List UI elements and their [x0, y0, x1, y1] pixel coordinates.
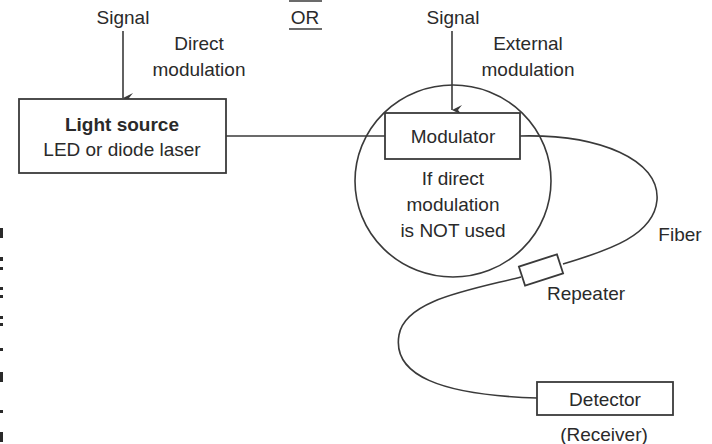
- modulator-box: Modulator: [385, 113, 520, 159]
- fiber-segment-repeater-to-detector: [398, 277, 537, 398]
- detector-label: Detector: [569, 389, 641, 410]
- modulator-note-line1: If direct: [422, 168, 485, 189]
- direct-mode-label-line2: modulation: [153, 59, 246, 80]
- light-source-box: Light source LED or diode laser: [19, 99, 226, 173]
- light-source-subtitle: LED or diode laser: [43, 139, 201, 160]
- external-mode-label-line2: modulation: [482, 59, 575, 80]
- modulator-label: Modulator: [411, 126, 496, 147]
- modulator-note-line2: modulation: [407, 194, 500, 215]
- fiber-label: Fiber: [658, 224, 702, 245]
- or-label: OR: [291, 7, 320, 28]
- optical-link-diagram: OR Signal Direct modulation Light source…: [0, 0, 712, 444]
- repeater-box: [519, 254, 563, 285]
- modulator-note-line3: is NOT used: [400, 220, 505, 241]
- direct-mode-label-line1: Direct: [174, 33, 224, 54]
- repeater-label: Repeater: [547, 283, 626, 304]
- light-source-title: Light source: [65, 114, 179, 135]
- external-mode-label-line1: External: [493, 33, 563, 54]
- direct-signal-label: Signal: [97, 7, 150, 28]
- detector-box: Detector: [537, 382, 673, 415]
- detector-sublabel: (Receiver): [560, 424, 648, 444]
- external-signal-label: Signal: [427, 7, 480, 28]
- fiber-segment-modulator-to-repeater: [520, 136, 657, 264]
